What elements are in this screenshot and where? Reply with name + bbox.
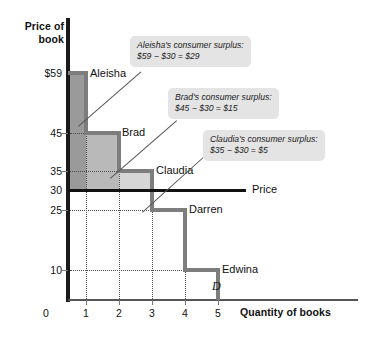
x-tick-label-1: 1 bbox=[76, 307, 96, 319]
price-line-label: Price bbox=[252, 183, 277, 195]
x-axis bbox=[68, 299, 358, 301]
demand-step-darren bbox=[150, 208, 187, 212]
y-tick-label-30: 30 bbox=[22, 184, 62, 196]
demand-step-edwina bbox=[183, 268, 220, 272]
demand-drop-4 bbox=[183, 208, 187, 270]
y-axis-title-line1: Price of bbox=[6, 20, 64, 33]
x-tick-label-0: 0 bbox=[36, 307, 56, 319]
callout-aleisha: Aleisha's consumer surplus: $59 − $30 = … bbox=[130, 36, 251, 67]
x-tick-mark-3 bbox=[152, 300, 153, 305]
demand-drop-2 bbox=[117, 131, 121, 173]
x-tick-mark-5 bbox=[218, 300, 219, 305]
x-tick-mark-1 bbox=[86, 300, 87, 305]
buyer-label-brad: Brad bbox=[122, 126, 145, 138]
callout-claudia: Claudia's consumer surplus: $35 − $30 = … bbox=[203, 130, 325, 161]
y-tick-mark-35 bbox=[62, 171, 68, 172]
y-tick-label-59: $59 bbox=[22, 67, 62, 79]
guide-v-1 bbox=[86, 133, 87, 299]
y-axis-title: Price of book bbox=[6, 20, 64, 45]
callout-claudia-line2: $35 − $30 = $5 bbox=[210, 145, 318, 156]
guide-h-35 bbox=[70, 171, 119, 172]
surplus-area-claudia bbox=[119, 171, 152, 190]
x-tick-label-3: 3 bbox=[142, 307, 162, 319]
x-tick-mark-2 bbox=[119, 300, 120, 305]
y-tick-label-10: 10 bbox=[22, 264, 62, 276]
y-tick-label-35: 35 bbox=[22, 165, 62, 177]
callout-brad: Brad's consumer surplus: $45 − $30 = $15 bbox=[168, 88, 279, 119]
y-tick-mark-25 bbox=[62, 210, 68, 211]
callout-brad-line1: Brad's consumer surplus: bbox=[175, 92, 272, 102]
y-tick-label-45: 45 bbox=[22, 127, 62, 139]
buyer-label-aleisha: Aleisha bbox=[90, 67, 126, 79]
demand-curve-label: D bbox=[212, 279, 221, 294]
callout-aleisha-line2: $59 − $30 = $29 bbox=[137, 51, 244, 62]
x-tick-label-2: 2 bbox=[109, 307, 129, 319]
surplus-area-brad bbox=[86, 133, 119, 190]
x-tick-label-5: 5 bbox=[208, 307, 228, 319]
callout-claudia-line1: Claudia's consumer surplus: bbox=[210, 134, 318, 144]
demand-drop-1 bbox=[84, 71, 88, 135]
y-tick-mark-45 bbox=[62, 133, 68, 134]
buyer-label-edwina: Edwina bbox=[222, 263, 258, 275]
demand-step-brad bbox=[84, 131, 121, 135]
x-axis-title: Quantity of books bbox=[240, 306, 380, 319]
x-tick-mark-4 bbox=[185, 300, 186, 305]
y-tick-mark-10 bbox=[62, 270, 68, 271]
consumer-surplus-chart: Price of book Quantity of books $59 45 3… bbox=[0, 0, 387, 347]
demand-step-claudia bbox=[117, 169, 154, 173]
y-axis-title-line2: book bbox=[6, 33, 64, 46]
callout-brad-line2: $45 − $30 = $15 bbox=[175, 103, 272, 114]
x-tick-label-4: 4 bbox=[175, 307, 195, 319]
callout-aleisha-line1: Aleisha's consumer surplus: bbox=[137, 40, 244, 50]
buyer-label-darren: Darren bbox=[189, 203, 223, 215]
price-line bbox=[68, 189, 246, 192]
y-tick-label-25: 25 bbox=[22, 204, 62, 216]
